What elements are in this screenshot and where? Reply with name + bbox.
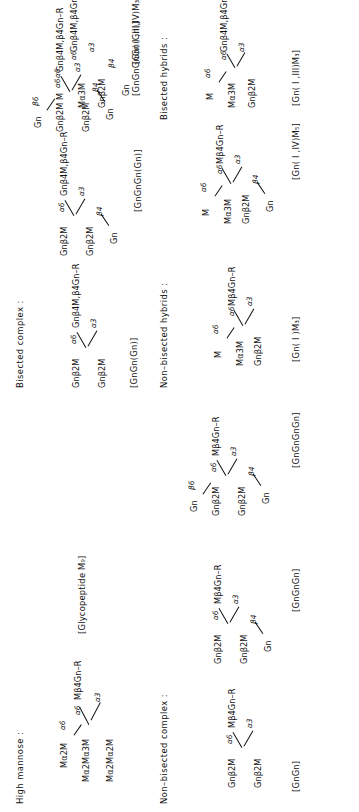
bracket-label-gngn-gn: [GnGn(Gn)]: [128, 338, 138, 388]
node-bisected-gngngn-lower-antenna: Gnβ2M: [84, 226, 94, 256]
linkage-label-a6: α6: [208, 462, 217, 472]
node-gngngn-branch-gn: Gn: [262, 640, 272, 652]
linkage-label-a6-upper: α6: [57, 720, 66, 730]
section-title-bisected-complex: Bisected complex :: [14, 300, 24, 388]
node-high-mannose-mid-arm: Mα2Mα3M: [80, 739, 90, 782]
bond-line: [254, 622, 263, 634]
node-gngngn-upper-antenna: Gnβ2M: [212, 634, 222, 664]
bond-line: [256, 182, 265, 194]
bond-line: [243, 730, 253, 746]
node-bisected-gngn-core: Gnβ4M,β4Gn–R: [70, 263, 80, 328]
linkage-label-a6-upper: α6: [202, 68, 211, 78]
linkage-label-a3: α3: [72, 62, 81, 72]
linkage-label-a6-upper: α6: [210, 324, 219, 334]
node-bisected-gngngngn-top-gn: Gn: [32, 116, 42, 128]
bond-line: [87, 330, 97, 346]
node-bh-gn1iiiivm3-branch-gn: Gn: [120, 84, 130, 96]
node-bisected-gngngn-core: Gnβ4M,β4Gn–R: [58, 131, 68, 196]
bond-line: [218, 71, 226, 82]
linkage-label-a6-upper: α6: [198, 182, 207, 192]
node-bh-gn1iiiivm3-lower-antenna: Gnβ2M: [96, 78, 106, 108]
node-gngngn-core: Mβ4Gn–R: [212, 564, 222, 604]
bracket-label-gngngngn: [GnGnGnGn]: [290, 412, 300, 468]
bracket-label-gn1iiiivm3: [Gn( I ,III,IV)M₃]: [130, 0, 140, 64]
bond-line: [236, 52, 245, 66]
bracket-label-glycopeptide-m9: [Glycopeptide M₉]: [76, 555, 86, 634]
linkage-label-b4: β4: [106, 59, 115, 68]
node-gngn-core: Mβ4Gn–R: [226, 688, 236, 728]
linkage-label-a3: α3: [88, 318, 97, 328]
node-bisected-gngngngn-core: Gnβ4M,β4Gn–R: [54, 7, 64, 72]
node-gngngngn-branch-gn: Gn: [260, 492, 270, 504]
node-high-mannose-upper-arm: Mα2M: [58, 743, 68, 768]
bracket-label-gn1ivm5: [Gn( I ,IV)M₅]: [290, 123, 300, 180]
linkage-label-a3: α3: [244, 296, 253, 306]
linkage-label-a6-upper: α6: [52, 68, 61, 78]
linkage-label-a3: α3: [232, 154, 241, 164]
figure-rotation-wrapper: High mannose : Mα2M α6 Mα2Mα3M α6 Mβ4Gn–…: [0, 0, 359, 812]
linkage-label-a6: α6: [224, 734, 233, 744]
node-bh-gn1iiim3-terminal-m: M: [204, 93, 214, 100]
node-bh-gn1iiiivm3-mid-m: Mα3M: [76, 83, 86, 108]
linkage-label-a3: α3: [244, 718, 253, 728]
bond-line: [75, 198, 85, 214]
bond-line: [73, 724, 81, 735]
node-gngngngn-core: Mβ4Gn–R: [210, 416, 220, 456]
node-bisected-gngn-upper-antenna: Gnβ2M: [70, 358, 80, 388]
section-title-non-bisected-complex: Non–bisected complex :: [158, 694, 168, 804]
bond-line: [233, 310, 243, 326]
node-gngngngn-upper-antenna: Gnβ2M: [210, 486, 220, 516]
bracket-label-gn1m3: [Gn( I )M₃]: [290, 317, 300, 362]
glycan-structures-figure: High mannose : Mα2M α6 Mα2Mα3M α6 Mβ4Gn–…: [0, 0, 359, 812]
section-title-non-bisected-hybrids: Non–bisected hybrids :: [158, 283, 168, 388]
node-bh-gn1iiiivm3-core: Gnβ4M,β4Gn–R: [68, 0, 78, 52]
node-nbh-gn1m3-mid-m: Mα3M: [234, 341, 244, 366]
bond-line: [227, 458, 237, 474]
bond-line: [90, 702, 100, 720]
bond-line: [226, 54, 235, 68]
bracket-label-gngngn: [GnGnGn]: [290, 568, 300, 612]
bracket-label-gngngn-gn: [GnGnGn(Gn)]: [132, 149, 142, 212]
bracket-label-gn1iiim3: [Gn( I ,III)M₃]: [290, 50, 300, 106]
node-bisected-gngn-lower-antenna: Gnβ2M: [96, 358, 106, 388]
node-nbh-gn1ivm5-terminal-m: M: [200, 209, 210, 216]
node-gngngngn-lower-antenna: Gnβ2M: [236, 486, 246, 516]
section-title-bisected-hybrids: Bisected hybrids :: [158, 37, 168, 120]
node-gngn-lower-antenna: Gnβ2M: [252, 758, 262, 788]
bond-line: [214, 185, 222, 196]
node-gngngn-lower-antenna: Gnβ2M: [238, 634, 248, 664]
node-high-mannose-lower-arm: Mα2Mα2M: [104, 739, 114, 782]
linkage-label-a6: α6: [68, 334, 77, 344]
node-nbh-gn1m3-terminal-m: M: [212, 351, 222, 358]
node-nbh-gn1ivm5-lower-antenna: Gnβ2M: [240, 194, 250, 224]
node-bisected-gngngn-upper-antenna: Gnβ2M: [58, 226, 68, 256]
bond-line: [79, 707, 89, 725]
bond-line: [244, 308, 254, 324]
node-bh-gn1iiim3-mid-m: Mα3M: [226, 83, 236, 108]
node-nbh-gn1ivm5-mid-m: Mα3M: [222, 199, 232, 224]
linkage-label-a3-core: α3: [92, 692, 101, 702]
bond-line: [252, 474, 261, 486]
node-gngn-upper-antenna: Gnβ2M: [226, 758, 236, 788]
bond-line: [221, 168, 231, 184]
linkage-label-b6: β6: [186, 481, 195, 490]
bond-line: [202, 482, 211, 494]
linkage-label-a3: α3: [228, 446, 237, 456]
node-nbh-gn1m3-core: Mβ4Gn–R: [226, 266, 236, 306]
linkage-label-a3: α3: [236, 42, 245, 52]
node-gngngngn-top-gn: Gn: [188, 500, 198, 512]
bond-line: [232, 166, 242, 182]
linkage-label-b6: β6: [30, 97, 39, 106]
node-nbh-gn1m3-lower-antenna: Gnβ2M: [252, 336, 262, 366]
linkage-label-a6: α6: [56, 202, 65, 212]
linkage-label-a3: α3: [76, 186, 85, 196]
node-bh-gn1iiiivm3-terminal-m: M: [54, 93, 64, 100]
linkage-label-a3: α3: [230, 594, 239, 604]
linkage-label-a3: α3: [86, 42, 95, 52]
node-high-mannose-core: Mβ4Gn–R: [72, 660, 82, 700]
bond-line: [46, 98, 55, 110]
section-title-high-mannose: High mannose :: [14, 732, 24, 804]
node-nbh-gn1ivm5-branch-gn: Gn: [264, 200, 274, 212]
node-bisected-gngngngn-upper-antenna: Gnβ2M: [54, 102, 64, 132]
bond-line: [100, 214, 109, 226]
